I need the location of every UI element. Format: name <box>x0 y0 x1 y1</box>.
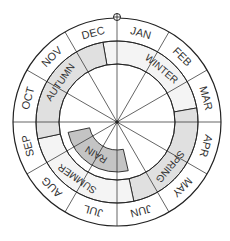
month-label-oct: OCT <box>19 85 37 111</box>
month-spokes <box>13 18 221 226</box>
top-marker-icon <box>114 14 121 21</box>
season-wheel-diagram: JANFEBMARAPRMAYJUNJULAUGSEPOCTNOVDEC WIN… <box>0 0 230 241</box>
month-label-jun: JUN <box>129 203 153 220</box>
month-label-dec: DEC <box>80 24 106 42</box>
center-dot <box>115 120 119 124</box>
month-label-mar: MAR <box>197 85 215 112</box>
month-label-jul: JUL <box>82 203 104 220</box>
month-label-sep: SEP <box>19 134 36 158</box>
month-label-apr: APR <box>198 133 215 158</box>
month-label-jan: JAN <box>129 24 152 41</box>
season-labels: WINTERSPRINGSUMMERAUTUMNRAIN <box>43 52 186 196</box>
